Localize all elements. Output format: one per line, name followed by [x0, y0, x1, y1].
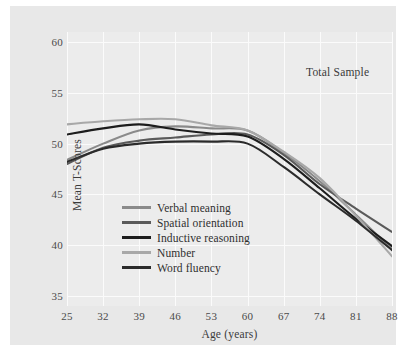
x-axis-label: Age (years) [67, 328, 392, 340]
x-tick-label: 74 [305, 310, 335, 322]
legend: Verbal meaningSpatial orientationInducti… [122, 200, 250, 275]
x-tick-label: 67 [269, 310, 299, 322]
legend-label: Inductive reasoning [157, 232, 250, 244]
x-tick-label: 53 [196, 310, 226, 322]
legend-item[interactable]: Spatial orientation [122, 215, 250, 230]
legend-item[interactable]: Verbal meaning [122, 200, 250, 215]
legend-swatch [122, 206, 151, 209]
legend-item[interactable]: Number [122, 245, 250, 260]
x-tick-label: 25 [52, 310, 82, 322]
legend-item[interactable]: Word fluency [122, 260, 250, 275]
chart-annotation: Total Sample [306, 66, 369, 78]
gridline-vertical [392, 32, 393, 306]
x-tick-label: 81 [341, 310, 371, 322]
y-tick-label: 45 [29, 188, 63, 200]
legend-label: Word fluency [157, 262, 221, 274]
y-axis-ticks: 354045505560 [25, 32, 63, 306]
legend-label: Number [157, 247, 195, 259]
x-tick-label: 32 [88, 310, 118, 322]
y-tick-label: 50 [29, 138, 63, 150]
legend-label: Spatial orientation [157, 217, 244, 229]
y-tick-label: 40 [29, 239, 63, 251]
y-tick-label: 60 [29, 36, 63, 48]
legend-swatch [122, 236, 151, 239]
y-axis-label: Mean T-Scores [71, 100, 83, 250]
legend-swatch [122, 266, 151, 269]
legend-label: Verbal meaning [157, 202, 231, 214]
x-tick-label: 60 [233, 310, 263, 322]
figure-container: 354045505560 25323946536067748188 Mean T… [0, 0, 407, 362]
legend-swatch [122, 221, 151, 224]
x-tick-label: 39 [124, 310, 154, 322]
x-axis-ticks: 25323946536067748188 [67, 310, 392, 326]
figure-panel: 354045505560 25323946536067748188 Mean T… [10, 6, 396, 345]
y-tick-label: 35 [29, 290, 63, 302]
legend-swatch [122, 251, 151, 254]
legend-item[interactable]: Inductive reasoning [122, 230, 250, 245]
x-tick-label: 88 [377, 310, 407, 322]
x-tick-label: 46 [160, 310, 190, 322]
y-tick-label: 55 [29, 87, 63, 99]
